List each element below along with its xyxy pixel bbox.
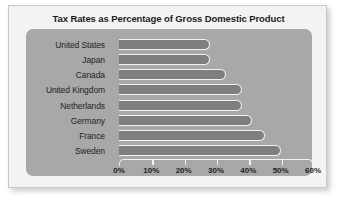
bar-row [119,52,305,67]
value-axis-labels: 0%10%20%30%40%50%60% [119,166,313,178]
category-axis: United States Japan Canada United Kingdo… [26,37,111,159]
axis-tick-label: 10% [143,166,159,175]
category-row: United Kingdom [26,83,111,98]
bar-sweden [119,145,281,156]
bar-united-kingdom [119,84,242,95]
bar-france [119,130,265,141]
screenshot-root: Tax Rates as Percentage of Gross Domesti… [0,0,339,199]
bar-row [119,129,305,144]
axis-tick-label: 20% [176,166,192,175]
category-label-sweden: Sweden [75,146,105,156]
category-label-canada: Canada [76,70,105,80]
category-row: Netherlands [26,98,111,113]
category-row: United States [26,37,111,52]
bar-row [119,68,305,83]
value-axis-line [119,159,313,166]
chart-title: Tax Rates as Percentage of Gross Domesti… [9,13,328,24]
axis-tick [282,160,283,165]
category-row: France [26,129,111,144]
plot-area: United States Japan Canada United Kingdo… [26,29,312,176]
category-label-japan: Japan [82,55,105,65]
bar-japan [119,54,210,65]
bar-row [119,98,305,113]
axis-tick-label: 50% [273,166,289,175]
axis-tick [217,160,218,165]
bar-row [119,144,305,159]
category-row: Japan [26,52,111,67]
bar-germany [119,115,252,126]
category-row: Germany [26,113,111,128]
bar-row [119,37,305,52]
bar-united-states [119,39,210,50]
axis-tick [152,160,153,165]
category-label-france: France [79,131,105,141]
category-label-united-kingdom: United Kingdom [46,85,105,95]
category-label-united-states: United States [55,40,105,50]
bars-container [119,37,305,159]
category-label-germany: Germany [71,116,105,126]
category-label-netherlands: Netherlands [60,101,105,111]
bar-row [119,83,305,98]
bar-canada [119,69,226,80]
axis-tick-label: 60% [305,166,321,175]
axis-tick-label: 0% [113,166,125,175]
bar-netherlands [119,100,242,111]
category-row: Sweden [26,144,111,159]
axis-tick [185,160,186,165]
axis-tick-label: 30% [208,166,224,175]
chart-card: Tax Rates as Percentage of Gross Domesti… [8,5,327,188]
axis-tick [249,160,250,165]
axis-tick-label: 40% [240,166,256,175]
category-row: Canada [26,68,111,83]
bar-row [119,113,305,128]
